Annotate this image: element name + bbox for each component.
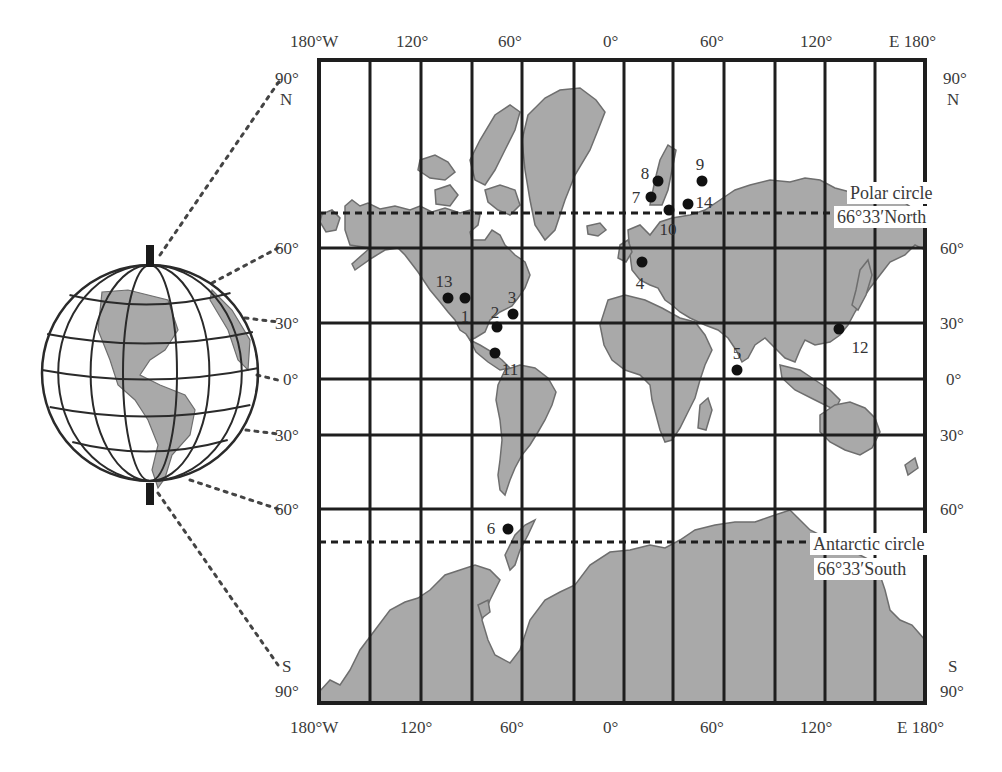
land-baffin [485,185,520,215]
globe-parallel [42,368,258,380]
location-marker-6 [503,524,514,535]
land-australia [820,402,880,455]
bottom-longitude-label: 180°W [290,719,338,736]
left-latitude-label: 60° [275,501,299,518]
land-madagascar [698,398,712,430]
globe-axis-top [146,245,154,267]
marker-number-label: 12 [852,339,869,356]
land-new-zealand [905,458,918,475]
bottom-longitude-label: 60° [700,719,724,736]
right-latitude-label: 90° [940,683,964,700]
right-latitude-label: 60° [940,240,964,257]
polar-circle-title: Polar circle [847,182,935,204]
land-southeast-asia-islands [780,365,840,410]
map-figure [0,0,1002,772]
top-longitude-label: 120° [396,33,428,50]
location-marker-8 [653,176,664,187]
globe-connector-dotted-line [245,318,278,322]
globe-connector-dotted-line [160,80,280,255]
globe-connector-dotted-line [257,375,278,380]
location-marker-7 [646,192,657,203]
location-marker-9 [697,176,708,187]
location-marker-14 [683,199,694,210]
globe-inset [42,80,280,665]
location-marker-1 [460,293,471,304]
location-marker-11 [490,348,501,359]
location-marker-10 [664,205,675,216]
bottom-longitude-label: 60° [500,719,524,736]
marker-number-label: 11 [502,361,518,378]
right-latitude-label: S [948,658,957,675]
right-latitude-label: 60° [940,501,964,518]
globe-connector-dotted-line [246,430,278,434]
left-latitude-label: 0° [283,371,298,388]
top-longitude-label: 60° [498,33,522,50]
location-marker-13 [443,293,454,304]
left-latitude-label: S [282,658,291,675]
location-marker-4 [637,257,648,268]
antarctic-circle-title: Antarctic circle [810,533,927,555]
left-latitude-label: 30° [275,315,299,332]
polar-circle-value: 66°33′North [834,206,929,228]
top-longitude-label: 120° [800,33,832,50]
location-marker-2 [492,322,503,333]
globe-axis-bottom [146,483,154,505]
globe-connector-dotted-line [190,480,278,509]
left-latitude-label: 90° [275,683,299,700]
marker-number-label: 4 [636,275,645,292]
marker-number-label: 14 [696,194,713,211]
left-latitude-label: 90° [275,70,299,87]
top-longitude-label: 60° [700,33,724,50]
globe-connector-dotted-line [212,248,278,283]
land-canadian-arctic-3 [470,105,520,185]
bottom-longitude-label: 120° [400,719,432,736]
marker-number-label: 13 [436,273,453,290]
location-marker-3 [508,309,519,320]
bottom-longitude-label: 120° [800,719,832,736]
marker-number-label: 3 [508,289,517,306]
top-longitude-label: E 180° [889,33,936,50]
marker-number-label: 5 [733,345,742,362]
top-longitude-label: 0° [603,33,618,50]
bottom-longitude-label: 0° [603,719,618,736]
globe-parallel [72,440,227,452]
marker-number-label: 7 [632,189,641,206]
marker-number-label: 1 [461,308,470,325]
land-canadian-arctic-2 [435,185,458,206]
land-iceland [587,223,606,236]
marker-number-label: 10 [660,221,677,238]
location-marker-5 [732,365,743,376]
right-latitude-label: 30° [940,315,964,332]
right-latitude-label: 30° [940,427,964,444]
landmasses [319,88,925,703]
antarctic-circle-value: 66°33′South [814,558,909,580]
location-marker-12 [834,324,845,335]
land-south-america [496,365,556,495]
land-greenland [522,88,605,240]
marker-number-label: 6 [487,520,496,537]
land-north-america [345,200,530,340]
left-latitude-label: N [280,91,292,108]
left-latitude-label: 30° [275,427,299,444]
marker-number-label: 8 [641,165,650,182]
land-canadian-arctic-1 [418,155,455,180]
right-latitude-label: 0° [946,371,961,388]
left-latitude-label: 60° [275,240,299,257]
globe-connector-dotted-line [158,493,278,665]
right-latitude-label: 90° [943,70,967,87]
bottom-longitude-label: E 180° [897,719,944,736]
marker-number-label: 9 [696,156,705,173]
top-longitude-label: 180°W [290,33,338,50]
right-latitude-label: N [947,91,959,108]
marker-number-label: 2 [491,304,500,321]
